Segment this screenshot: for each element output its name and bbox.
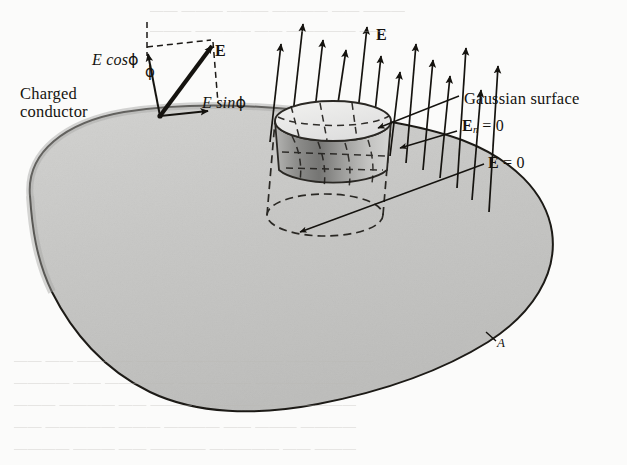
e-zero-rest: = 0 xyxy=(503,154,525,171)
e-vector-label: E xyxy=(215,43,226,60)
e-equals-zero-label: E = 0 xyxy=(488,155,525,172)
gaussian-surface-label: Gaussian surface xyxy=(464,90,579,107)
phi-symbol-sin: ϕ xyxy=(235,93,246,112)
bleed-through-text: ——— ———— —— ————— —— xyxy=(150,22,388,38)
en-symbol: E xyxy=(462,117,473,134)
e-zero-symbol: E xyxy=(488,154,499,171)
e-cos-phi-label: E cosϕ xyxy=(92,52,139,69)
tangent-point xyxy=(157,113,162,118)
bleed-through-text: ———— ——— —— ———— ————— —— ——— xyxy=(14,440,356,456)
en-equals-zero-label: En = 0 xyxy=(462,118,504,136)
e-cos-phi-text: E cos xyxy=(92,51,128,68)
bleed-through-text: ———— —— ————— ——— —— ———— ——— xyxy=(14,374,356,390)
e-sin-phi-text: E sin xyxy=(202,94,235,111)
dashed-top-connector xyxy=(147,40,211,47)
physics-figure-gaussian-pillbox: Charged conductor E cosϕ E sinϕ ϕ E E Ga… xyxy=(0,0,627,465)
phi-symbol-cos: ϕ xyxy=(128,50,139,69)
charged-conductor-line2: conductor xyxy=(20,103,88,120)
bleed-through-text: —— ——— ——— ———— —— ——— xyxy=(150,2,405,18)
point-a-label: A xyxy=(497,336,505,350)
bleed-through-text: —— ————— ——— ———— —— ——— ———— xyxy=(14,418,356,434)
charged-conductor-label: Charged conductor xyxy=(20,85,88,121)
en-subscript: n xyxy=(473,124,478,135)
bleed-through-text: ——— ———— —— ——— ————— —— ———— xyxy=(14,396,356,412)
bleed-through-text: —— —— ———— ——— ———— ——— —— ———— xyxy=(14,352,374,368)
phi-angle-label: ϕ xyxy=(145,65,155,81)
en-rest: = 0 xyxy=(482,117,504,134)
charged-conductor-line1: Charged xyxy=(20,84,77,103)
e-sin-phi-label: E sinϕ xyxy=(202,95,246,112)
